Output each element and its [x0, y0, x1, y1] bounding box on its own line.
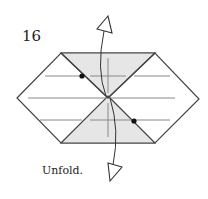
arrowhead-up-icon [97, 16, 112, 33]
origami-diagram: 16 Unfold. [0, 0, 208, 199]
reference-dot-upper [79, 73, 84, 78]
instruction-caption: Unfold. [42, 164, 83, 177]
arrowhead-down-icon [108, 163, 122, 181]
reference-dot-lower [131, 118, 136, 123]
step-number: 16 [22, 27, 41, 45]
